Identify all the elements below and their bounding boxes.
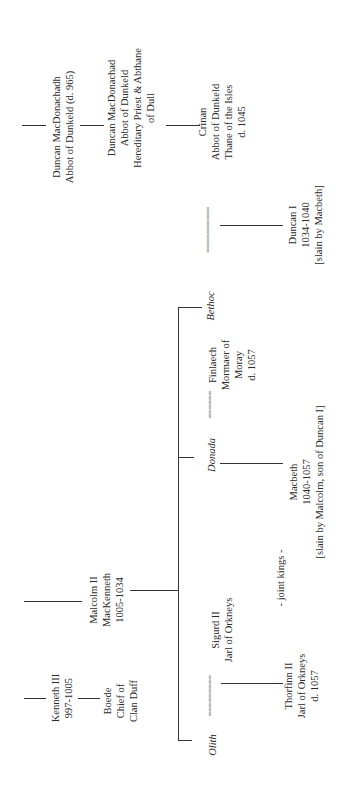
person-title: Abbot of Dunkeld (d. 965) [63, 71, 76, 183]
person-name: Sigurd II [209, 598, 222, 663]
person-name: Malcolm II [87, 573, 100, 627]
descent-line [166, 125, 200, 126]
descent-line [221, 683, 283, 684]
person-death: d. 1045 [235, 84, 248, 160]
person-macbeth: Macbeth 1040-1057 [slain by Malcolm, son… [287, 405, 326, 558]
person-title: Abbot of Dunkeld [209, 84, 222, 160]
joint-kings-note: - joint kings - [274, 550, 287, 607]
sibling-tick-bethoc [178, 307, 202, 308]
person-reign: 1034-1040 [299, 185, 312, 264]
person-name: Thorfinn II [282, 654, 295, 719]
person-note: [slain by Malcolm, son of Duncan I] [313, 405, 326, 558]
person-death: d. 1057 [245, 340, 258, 390]
sibling-connector [178, 307, 179, 741]
person-title: Abbot of Dunkeld [118, 48, 131, 168]
person-sigurd-ii: Sigurd II Jarl of Orkneys [209, 598, 235, 663]
parent-link-malcolm [130, 590, 178, 591]
person-title: Moray [232, 340, 245, 390]
person-title: of Dull [144, 48, 157, 168]
person-kenneth-iii: Kenneth III 997-1005 [49, 674, 75, 723]
person-death: d. 1057 [308, 654, 321, 719]
person-duncan-macdonachad: Duncan MacDonachad Abbot of Dunkeld Here… [105, 48, 157, 168]
person-finlaech: Finlaech Mormaer of Moray d. 1057 [206, 340, 258, 390]
person-name: Macbeth [287, 405, 300, 558]
sibling-tick-donada-line [178, 457, 194, 458]
person-boede: Boede Chief of Clan Duff [101, 680, 140, 722]
person-olith: Olith [206, 734, 219, 756]
descent-line [24, 601, 82, 602]
descent-line [220, 463, 283, 464]
person-name: Crinan [196, 84, 209, 160]
person-title: Thane of the Isles [222, 84, 235, 160]
person-donada: Donada [205, 438, 218, 472]
person-duncan-i: Duncan I 1034-1040 [slain by Macbeth] [286, 185, 325, 264]
person-duncan-macdonachadh: Duncan MacDonachadh Abbot of Dunkeld (d.… [50, 71, 76, 183]
person-title: Mormaer of [219, 340, 232, 390]
person-bethoc: Bethoc [204, 291, 217, 320]
person-title: Chief of [114, 680, 127, 722]
sibling-tick-olith [178, 740, 192, 741]
descent-line [24, 698, 46, 699]
person-title: Hereditary Priest & Abthane [131, 48, 144, 168]
marriage-symbol-bethoc-crinan: ========== [203, 207, 213, 253]
person-name: Boede [101, 680, 114, 722]
person-crinan: Crinan Abbot of Dunkeld Thane of the Isl… [196, 84, 248, 160]
person-name: Kenneth III [49, 674, 62, 723]
person-name: Finlaech [206, 340, 219, 390]
person-reign: 1005-1034 [113, 573, 126, 627]
person-thorfinn-ii: Thorfinn II Jarl of Orkneys d. 1057 [282, 654, 321, 719]
person-title: MacKenneth [100, 573, 113, 627]
person-note: [slain by Macbeth] [312, 185, 325, 264]
person-title: Jarl of Orkneys [295, 654, 308, 719]
person-reign: 997-1005 [62, 674, 75, 723]
person-malcolm-ii: Malcolm II MacKenneth 1005-1034 [87, 573, 126, 627]
marriage-symbol-olith-sigurd: ========= [205, 675, 215, 716]
person-title: Jarl of Orkneys [222, 598, 235, 663]
person-name: Duncan MacDonachadh [50, 71, 63, 183]
descent-line [22, 125, 46, 126]
descent-line [78, 698, 100, 699]
descent-line [220, 225, 283, 226]
descent-line [80, 125, 104, 126]
person-name: Duncan MacDonachad [105, 48, 118, 168]
person-name: Duncan I [286, 185, 299, 264]
person-title: Clan Duff [127, 680, 140, 722]
person-reign: 1040-1057 [300, 405, 313, 558]
marriage-symbol-donada-finlaech: ====== [205, 391, 215, 418]
